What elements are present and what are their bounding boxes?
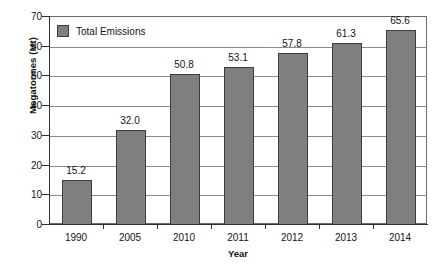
x-tick-label: 2010 [173,232,195,243]
x-tick-label: 2012 [281,232,303,243]
bar-value-label: 50.8 [174,59,193,70]
legend-swatch-total-emissions [57,25,69,37]
y-tick-label: 30 [2,129,42,140]
y-tick-label: 60 [2,40,42,51]
x-tick-label: 1990 [65,232,87,243]
legend-label-total-emissions: Total Emissions [76,26,145,37]
x-tick-mark [103,224,104,229]
bar [386,30,416,225]
y-tick-label: 70 [2,11,42,22]
y-tick-mark [42,105,49,106]
y-tick-mark [42,16,49,17]
bar [278,53,308,225]
bar-value-label: 53.1 [228,52,247,63]
y-tick-mark [42,135,49,136]
x-tick-label: 2011 [227,232,249,243]
x-tick-mark [373,224,374,229]
x-tick-label: 2005 [119,232,141,243]
y-tick-mark [42,75,49,76]
plot-area [49,16,427,224]
x-axis-line [49,224,428,225]
bar-value-label: 32.0 [120,115,139,126]
bar [224,67,254,225]
y-tick-label: 20 [2,159,42,170]
y-tick-label: 40 [2,100,42,111]
gridline [50,47,426,48]
x-tick-label: 2013 [335,232,357,243]
y-tick-mark [42,165,49,166]
y-tick-label: 10 [2,189,42,200]
bar-value-label: 57.8 [282,38,301,49]
y-axis-line [49,16,50,225]
y-tick-label: 50 [2,70,42,81]
x-tick-label: 2014 [389,232,411,243]
y-tick-label: 0 [2,219,42,230]
bar-value-label: 61.3 [336,28,355,39]
bar [332,43,362,225]
x-tick-mark [319,224,320,229]
bar [116,130,146,225]
y-tick-mark [42,224,49,225]
x-tick-mark [157,224,158,229]
y-tick-mark [42,194,49,195]
bar [170,74,200,225]
legend: Total Emissions [57,25,145,37]
bar-value-label: 15.2 [66,165,85,176]
x-tick-mark [211,224,212,229]
y-tick-mark [42,46,49,47]
bar-value-label: 65.6 [390,15,409,26]
bar-chart: Megatonnes (Mt) 010203040506070 19902005… [0,0,442,269]
x-axis-title: Year [49,248,427,259]
bar [62,180,92,225]
x-tick-mark [265,224,266,229]
